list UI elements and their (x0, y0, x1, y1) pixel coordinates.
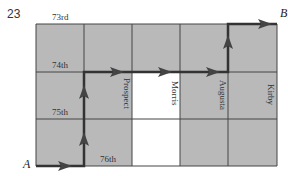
street-label-76th: 76th (100, 154, 116, 164)
street-label-augusta: Augusta (218, 80, 228, 110)
street-label-74th: 74th (52, 60, 68, 70)
street-label-kirby: Kirby (266, 84, 276, 105)
point-b-label: B (280, 6, 287, 21)
street-label-73rd: 73rd (52, 12, 69, 22)
point-a-label: A (23, 157, 30, 172)
street-grid-diagram (0, 0, 288, 176)
street-label-prospect: Prospect (122, 78, 132, 109)
street-label-morris: Morris (170, 81, 180, 106)
grid-cells (36, 24, 277, 166)
street-label-75th: 75th (52, 107, 68, 117)
